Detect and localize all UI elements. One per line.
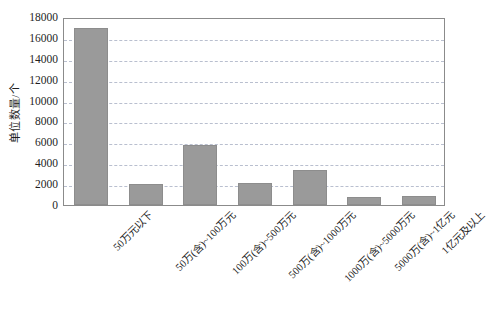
x-axis-category-label: 50万元以下 (112, 210, 155, 253)
y-axis-title-text: 单位数量/个 (6, 83, 22, 143)
x-axis-tick-mark (391, 205, 392, 206)
y-axis-tick-label: 8000 (35, 117, 58, 129)
bar[interactable] (74, 28, 108, 205)
y-axis-tick-labels: 0200040006000800010000120001400016000180… (24, 18, 62, 206)
y-axis-tick-mark (63, 61, 64, 62)
x-axis-tick-mark (173, 205, 174, 206)
y-axis-tick-label: 14000 (29, 54, 58, 66)
y-axis-tick-label: 4000 (35, 158, 58, 170)
bar-slot (119, 19, 174, 205)
bar-slot (228, 19, 283, 205)
bar[interactable] (183, 145, 217, 205)
y-axis-tick-label: 0 (52, 200, 58, 212)
bar[interactable] (238, 183, 272, 205)
y-axis-tick-label: 12000 (29, 75, 58, 87)
y-axis-tick-label: 18000 (29, 12, 58, 24)
bar[interactable] (347, 197, 381, 205)
x-axis-category-label: 100万(含)~500万元 (231, 210, 298, 277)
bar[interactable] (293, 170, 327, 206)
x-axis-tick-mark (228, 205, 229, 206)
bar-slot (282, 19, 337, 205)
y-axis-tick-mark (63, 144, 64, 145)
x-axis-category-labels: 50万元以下50万(含)~100万元100万(含)~500万元500万(含)~1… (63, 207, 445, 315)
bar-slot (64, 19, 119, 205)
y-axis-tick-mark (63, 40, 64, 41)
y-axis-tick-label: 16000 (29, 33, 58, 45)
y-axis-title: 单位数量/个 (2, 18, 26, 208)
y-axis-tick-label: 2000 (35, 179, 58, 191)
y-axis-tick-mark (63, 103, 64, 104)
y-axis-tick-label: 10000 (29, 96, 58, 108)
bar[interactable] (129, 184, 163, 205)
y-axis-tick-mark (63, 123, 64, 124)
x-axis-tick-mark (119, 205, 120, 206)
bar[interactable] (402, 196, 436, 205)
x-axis-tick-mark (282, 205, 283, 206)
bar-slot (391, 19, 445, 205)
x-axis-tick-mark (337, 205, 338, 206)
bars-layer (64, 19, 444, 205)
y-axis-tick-label: 6000 (35, 138, 58, 150)
y-axis-tick-mark (63, 165, 64, 166)
x-axis-category-label: 50万(含)~100万元 (175, 210, 238, 273)
y-axis-tick-mark (63, 82, 64, 83)
bar-slot (337, 19, 392, 205)
y-axis-tick-mark (63, 186, 64, 187)
bar-slot (173, 19, 228, 205)
plot-area (63, 18, 445, 206)
